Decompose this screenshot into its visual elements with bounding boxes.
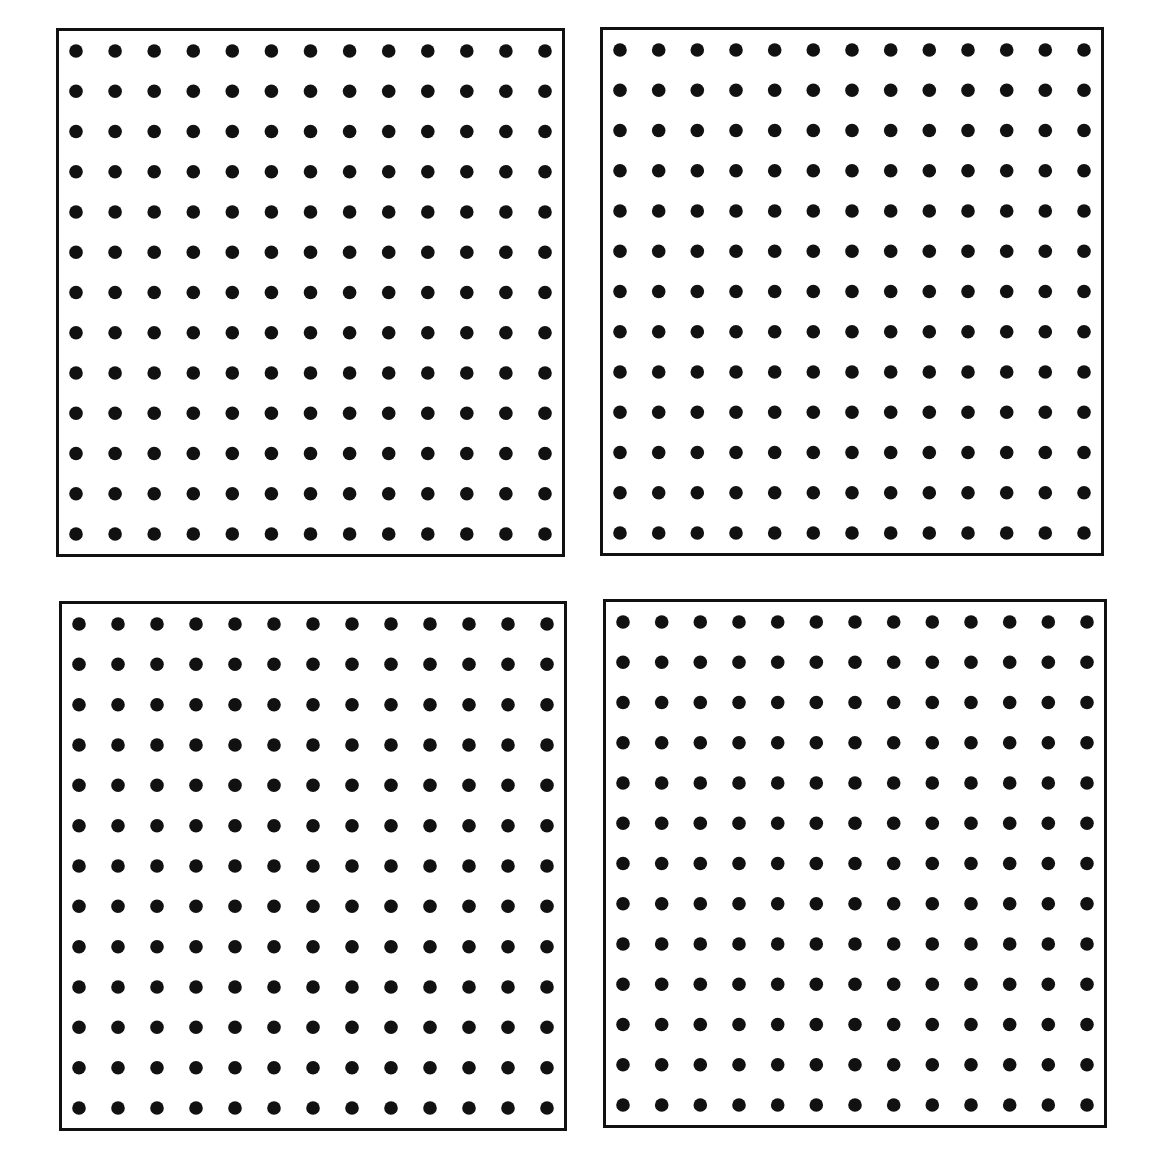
grid-dot: [1042, 978, 1056, 992]
grid-dot: [848, 656, 862, 670]
grid-dot: [961, 124, 975, 138]
grid-dot: [540, 819, 554, 833]
grid-dot: [304, 407, 318, 421]
grid-dot: [961, 446, 975, 460]
grid-dot: [691, 406, 705, 420]
grid-dot: [1003, 978, 1017, 992]
grid-dot: [501, 738, 515, 752]
grid-dot: [964, 897, 978, 911]
grid-dot: [1080, 1018, 1094, 1032]
grid-dot: [1039, 486, 1053, 500]
grid-dot: [1000, 446, 1014, 460]
grid-dot: [384, 1021, 398, 1035]
grid-dot: [462, 617, 476, 631]
grid-dot: [964, 1098, 978, 1112]
grid-dot: [1000, 164, 1014, 178]
grid-dot: [306, 819, 320, 833]
grid-dot: [732, 1098, 746, 1112]
grid-dot: [462, 900, 476, 914]
grid-dot: [540, 900, 554, 914]
grid-dot: [887, 937, 901, 951]
grid-dot: [1039, 526, 1053, 540]
grid-dot: [884, 486, 898, 500]
grid-dot: [810, 1018, 824, 1032]
grid-dot: [616, 897, 630, 911]
grid-dot: [501, 1021, 515, 1035]
grid-dot: [1080, 776, 1094, 790]
grid-dot: [423, 1061, 437, 1075]
grid-dot: [964, 776, 978, 790]
grid-dot: [226, 246, 240, 260]
grid-dot: [540, 617, 554, 631]
grid-dot: [768, 325, 782, 339]
grid-dot: [421, 326, 435, 340]
grid-dot: [691, 446, 705, 460]
grid-dot: [538, 205, 552, 219]
grid-dot: [1000, 365, 1014, 379]
grid-dot: [267, 698, 281, 712]
grid-dot: [655, 857, 669, 871]
grid-dot: [1003, 897, 1017, 911]
grid-dot: [306, 859, 320, 873]
grid-dot: [111, 819, 125, 833]
grid-dot: [462, 738, 476, 752]
grid-dot: [845, 446, 859, 460]
grid-dot: [226, 407, 240, 421]
grid-dot: [807, 365, 821, 379]
grid-dot: [267, 1061, 281, 1075]
grid-dot: [423, 1021, 437, 1035]
grid-dot: [729, 325, 743, 339]
grid-dot: [887, 1018, 901, 1032]
grid-dot: [732, 937, 746, 951]
grid-dot: [729, 486, 743, 500]
grid-dot: [267, 779, 281, 793]
grid-dot: [228, 980, 242, 994]
grid-dot: [384, 859, 398, 873]
grid-dot: [1077, 325, 1091, 339]
grid-dot: [848, 1018, 862, 1032]
grid-dot: [884, 325, 898, 339]
grid-dot: [616, 615, 630, 629]
grid-dot: [964, 615, 978, 629]
grid-dot: [226, 527, 240, 541]
grid-dot: [732, 897, 746, 911]
grid-dot: [613, 43, 627, 57]
grid-dot: [189, 738, 203, 752]
grid-dot: [150, 900, 164, 914]
grid-dot: [72, 859, 86, 873]
grid-dot: [111, 859, 125, 873]
grid-dot: [343, 165, 357, 179]
grid-dot: [540, 779, 554, 793]
grid-dot: [384, 698, 398, 712]
grid-dot: [807, 526, 821, 540]
grid-dot: [150, 698, 164, 712]
grid-dot: [887, 776, 901, 790]
grid-dot: [729, 365, 743, 379]
grid-dot: [228, 940, 242, 954]
grid-dot: [732, 978, 746, 992]
grid-dot: [926, 937, 940, 951]
grid-dot: [147, 205, 161, 219]
grid-dot: [845, 486, 859, 500]
grid-dot: [69, 85, 83, 99]
grid-dot: [147, 366, 161, 380]
grid-dot: [267, 980, 281, 994]
grid-dot: [72, 779, 86, 793]
grid-dot: [613, 365, 627, 379]
grid-dot: [848, 1098, 862, 1112]
grid-dot: [382, 527, 396, 541]
grid-dot: [189, 1101, 203, 1115]
grid-dot: [923, 285, 937, 299]
grid-dot: [884, 43, 898, 57]
grid-dot: [652, 446, 666, 460]
grid-dot: [613, 526, 627, 540]
grid-dot: [616, 857, 630, 871]
grid-dot: [729, 204, 743, 218]
grid-dot: [538, 246, 552, 260]
grid-dot: [462, 859, 476, 873]
grid-dot: [961, 325, 975, 339]
grid-dot: [304, 85, 318, 99]
grid-dot: [732, 615, 746, 629]
grid-dot: [655, 978, 669, 992]
grid-dot: [1003, 857, 1017, 871]
